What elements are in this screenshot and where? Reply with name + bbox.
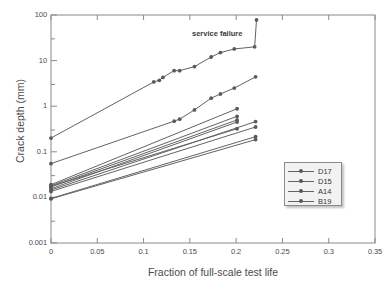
series-marker [254,138,258,142]
legend-item-label: B19 [314,197,331,206]
series-marker [254,75,258,79]
series-marker [235,114,239,118]
chart-legend[interactable]: D17 D15 A14 B19 [284,162,342,206]
x-tick-label: 0.35 [355,247,392,256]
x-tick-label: 0.1 [124,247,164,256]
series-marker [209,55,213,59]
x-tick-label: 0.15 [170,247,210,256]
legend-item-label: D15 [314,177,332,186]
series-marker [49,197,53,201]
series-marker [254,125,258,129]
series-marker [219,51,223,55]
series-marker [232,86,236,90]
series-line [51,140,256,199]
series-line [51,122,256,190]
chart-figure: 1001010.10.010.001 00.050.10.150.20.250.… [0,0,392,288]
series-marker [49,136,53,140]
series-line [51,137,256,199]
x-tick-label: 0.2 [216,247,256,256]
series-marker [235,127,239,131]
x-axis-title: Fraction of full-scale test life [51,266,375,278]
series-line [51,127,256,191]
series-marker [253,45,257,49]
legend-line-marker-icon [288,197,314,206]
plot-canvas [0,0,392,288]
x-tick-label: 0 [31,247,71,256]
legend-item[interactable]: B19 [285,196,341,206]
legend-line-marker-icon [288,167,314,176]
series-marker [161,75,165,79]
series-line [51,129,237,187]
annotation-service-failure: service failure [192,29,242,38]
data-series-group [49,18,258,201]
y-tick-marks [51,15,57,243]
series-marker [152,80,156,84]
series-marker [254,120,258,124]
legend-item-label: A14 [314,187,331,196]
series-marker [172,69,176,73]
y-tick-label: 100 [8,10,47,19]
series-marker [49,190,53,194]
series-line [51,109,237,185]
y-axis-title: Crack depth (mm) [14,56,26,186]
legend-line-marker-icon [288,177,314,186]
series-marker [193,108,197,112]
series-marker [255,18,259,22]
y-tick-label: 0.01 [8,192,47,201]
legend-item[interactable]: D17 [285,166,341,176]
series-marker [49,162,53,166]
legend-item-label: D17 [314,167,332,176]
series-line [51,77,256,164]
x-tick-label: 0.25 [262,247,302,256]
x-tick-label: 0.05 [77,247,117,256]
series-marker [209,96,213,100]
series-marker [157,78,161,82]
series-marker [172,119,176,123]
series-marker [235,120,239,124]
legend-item[interactable]: A14 [285,186,341,196]
series-marker [193,65,197,69]
x-tick-label: 0.3 [309,247,349,256]
legend-line-marker-icon [288,187,314,196]
series-marker [178,117,182,121]
series-marker [49,184,53,188]
series-marker [235,107,239,111]
y-tick-label: 0.001 [8,238,47,247]
series-marker [178,69,182,73]
legend-item[interactable]: D15 [285,176,341,186]
series-marker [232,47,236,51]
series-marker [219,92,223,96]
